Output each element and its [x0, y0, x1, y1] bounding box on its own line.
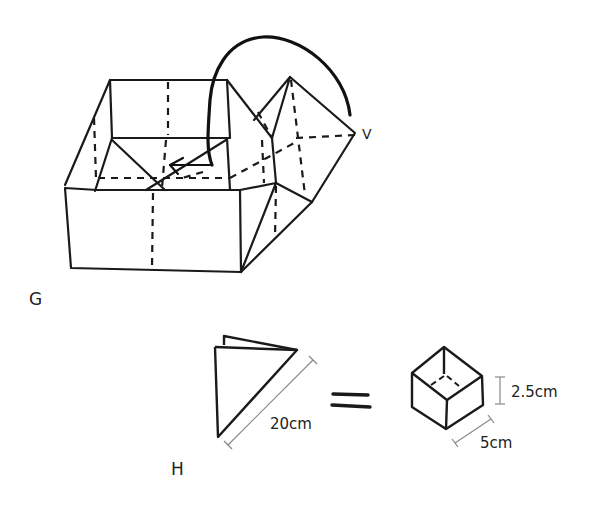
triangle-dimension-label: 20cm: [270, 415, 312, 433]
point-label-v: V: [362, 126, 372, 142]
equals-sign: [332, 394, 370, 407]
dimension-line-20cm: [224, 356, 317, 449]
box-height-label: 2.5cm: [511, 383, 558, 401]
dimension-line-2-5cm: [495, 377, 505, 404]
step-label-g: G: [29, 289, 42, 309]
dashed-fold-lines: [94, 80, 355, 268]
right-flap: [254, 77, 290, 138]
small-box: [412, 347, 483, 429]
step-label-h: H: [171, 459, 184, 479]
left-flap: [65, 80, 110, 185]
box-width-label: 5cm: [480, 434, 512, 452]
small-box-inner-dashes: [431, 376, 459, 386]
